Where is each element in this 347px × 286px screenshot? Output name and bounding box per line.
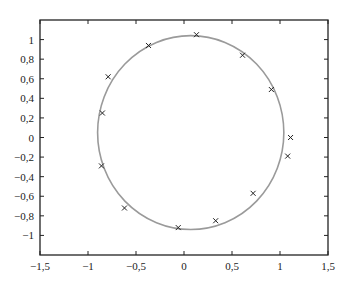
x-tick-label: 1 <box>277 260 283 272</box>
x-marker <box>213 218 218 223</box>
x-tick-label: −1 <box>82 260 94 272</box>
y-tick-label: −0,8 <box>14 210 34 222</box>
plot-frame <box>40 20 328 255</box>
y-tick-label: 0,8 <box>20 53 34 65</box>
x-tick-label: 0,5 <box>225 260 239 272</box>
x-axis: −1,5−1−0,500,511,5 <box>30 20 335 272</box>
y-axis: −1−0,8−0,6−0,4−0,200,20,40,60,81 <box>14 34 328 242</box>
x-marker <box>269 87 274 92</box>
x-tick-label: 0 <box>181 260 187 272</box>
y-tick-label: −1 <box>22 229 34 241</box>
y-tick-label: 0,6 <box>20 73 34 85</box>
y-tick-label: 0,4 <box>20 92 34 104</box>
x-tick-label: −0,5 <box>126 260 146 272</box>
plot-area <box>98 32 293 230</box>
x-marker <box>100 111 105 116</box>
x-marker <box>251 191 256 196</box>
y-tick-label: 0,2 <box>20 112 34 124</box>
y-tick-label: −0,6 <box>14 190 34 202</box>
x-tick-label: −1,5 <box>30 260 50 272</box>
y-tick-label: 1 <box>29 34 35 46</box>
x-marker <box>288 135 293 140</box>
x-marker <box>122 206 127 211</box>
x-tick-label: 1,5 <box>321 260 335 272</box>
y-tick-label: −0,2 <box>14 151 34 163</box>
y-tick-label: −0,4 <box>14 171 34 183</box>
scatter-chart: −1,5−1−0,500,511,5 −1−0,8−0,6−0,4−0,200,… <box>0 0 347 286</box>
fitted-circle <box>98 36 284 230</box>
x-marker <box>106 74 111 79</box>
y-tick-label: 0 <box>29 132 35 144</box>
x-marker <box>240 53 245 58</box>
x-marker <box>285 154 290 159</box>
